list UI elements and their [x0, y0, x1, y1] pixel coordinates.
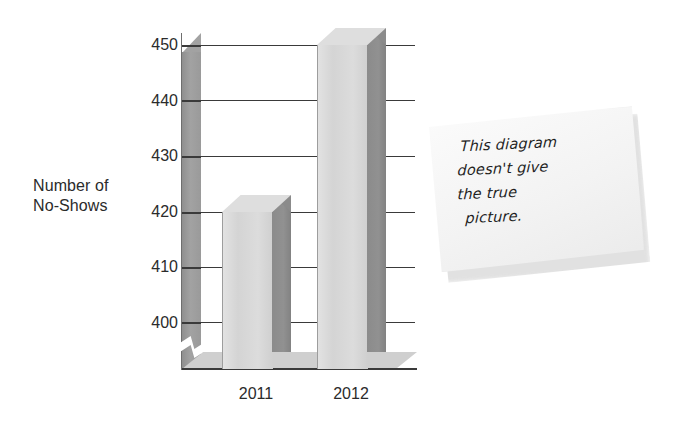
y-tick-mark-430 — [182, 156, 201, 158]
y-tick-mark-420 — [182, 212, 201, 214]
y-axis-edge — [181, 33, 182, 370]
y-tick-mark-400 — [182, 322, 201, 324]
x-tick-label-2012: 2012 — [311, 385, 391, 403]
chart-figure: Number of No-Shows 450 440 430 420 410 4… — [0, 0, 674, 423]
bar-2012-front-face — [317, 45, 368, 369]
y-tick-mark-450 — [182, 45, 201, 47]
sticky-note-text: This diagram doesn't give the true pictu… — [457, 126, 636, 230]
sticky-note-annotation: This diagram doesn't give the true pictu… — [426, 105, 651, 280]
y-tick-mark-410 — [182, 267, 201, 269]
y-axis-wall-bevel — [182, 33, 201, 53]
bar-2012-side-face — [367, 28, 386, 352]
y-tick-mark-440 — [182, 100, 201, 102]
bar-2012 — [317, 28, 386, 369]
bar-2011 — [222, 195, 291, 369]
bar-2011-front-face — [222, 212, 273, 369]
bar-2011-side-face — [272, 195, 291, 352]
x-tick-label-2011: 2011 — [216, 385, 296, 403]
